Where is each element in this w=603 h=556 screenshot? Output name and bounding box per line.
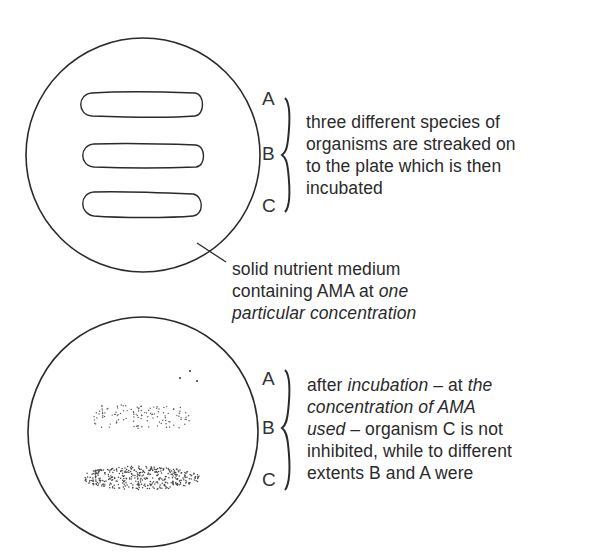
bottom-caption-line-3: used – organism C is not: [307, 418, 512, 440]
bottom-caption-line-1: after incubation – at the: [307, 374, 512, 396]
top-brace: [282, 98, 290, 212]
top-plate-outline: [26, 38, 260, 272]
bottom-label-a: A: [262, 369, 275, 388]
bottom-label-c: C: [262, 470, 276, 489]
bottom-caption-l3-italic: used: [307, 419, 345, 439]
medium-caption-line-3-italic: particular concentration: [232, 303, 416, 323]
top-caption-line-3: to the plate which is then: [306, 155, 516, 177]
medium-caption-line-2: containing AMA at one: [232, 280, 416, 302]
top-caption-line-4: incubated: [306, 177, 516, 199]
streak-c: [83, 192, 202, 218]
bottom-caption-l1-b: – at: [428, 375, 468, 395]
medium-caption: solid nutrient medium containing AMA at …: [232, 258, 416, 324]
top-label-b: B: [262, 144, 275, 163]
bottom-caption-line-2: concentration of AMA: [307, 396, 512, 418]
bottom-label-b: B: [262, 418, 275, 437]
top-caption-line-1: three different species of: [306, 111, 516, 133]
colony-c-dense-growth: [84, 465, 199, 490]
bottom-petri-dish: [28, 317, 290, 547]
bottom-caption-l3-normal: – organism C is not: [345, 419, 503, 439]
top-plate-caption: three different species of organisms are…: [306, 111, 516, 199]
streak-b: [83, 144, 204, 168]
bottom-caption-l1-italic-b: the: [468, 375, 493, 395]
bottom-caption-line-5: extents B and A were: [307, 462, 512, 484]
bottom-caption-line-4: inhibited, while to different: [307, 440, 512, 462]
medium-caption-line-1: solid nutrient medium: [232, 258, 416, 280]
streak-a: [81, 92, 203, 117]
bottom-plate-caption: after incubation – at the concentration …: [307, 374, 512, 484]
colony-a-specks: [179, 370, 198, 382]
top-caption-line-2: organisms are streaked on: [306, 133, 516, 155]
top-label-c: C: [262, 196, 276, 215]
bottom-plate-outline: [28, 317, 258, 547]
top-petri-dish: [26, 38, 290, 272]
bottom-brace: [282, 370, 290, 490]
medium-caption-line-2-normal: containing AMA at: [232, 281, 379, 301]
bottom-caption-l2-italic: concentration of AMA: [307, 397, 476, 417]
medium-caption-line-2-italic: one: [379, 281, 409, 301]
medium-caption-line-3: particular concentration: [232, 302, 416, 324]
medium-pointer-line: [197, 243, 226, 262]
bottom-caption-l1-a: after: [307, 375, 347, 395]
bottom-caption-l1-italic-a: incubation: [347, 375, 428, 395]
colony-b-sparse-growth: [93, 404, 190, 429]
top-label-a: A: [262, 89, 275, 108]
